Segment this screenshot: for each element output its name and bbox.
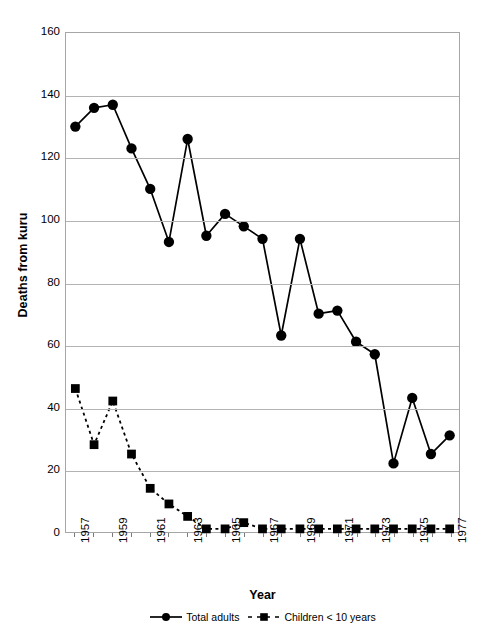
y-tick-label: 0 <box>26 527 60 538</box>
x-tick-mark <box>225 533 226 537</box>
x-tick-mark <box>319 533 320 537</box>
gridline <box>66 346 459 347</box>
data-point-marker <box>127 450 136 459</box>
gridline <box>66 471 459 472</box>
data-point-marker <box>182 134 192 144</box>
legend-circle-icon <box>149 611 183 623</box>
data-point-marker <box>70 121 80 131</box>
y-axis-tick-labels: 020406080100120140160 <box>22 0 60 643</box>
x-tick-mark <box>357 533 358 537</box>
x-tick-mark <box>112 533 113 537</box>
data-point-marker <box>89 103 99 113</box>
data-point-marker <box>333 525 342 534</box>
x-tick-label: 1973 <box>380 517 392 543</box>
data-point-marker <box>370 525 379 534</box>
data-point-marker <box>90 440 99 449</box>
data-point-marker <box>257 234 267 244</box>
data-point-marker <box>276 330 286 340</box>
legend-entry-2: Children < 10 years <box>247 611 375 623</box>
x-tick-mark <box>281 533 282 537</box>
data-point-marker <box>407 393 417 403</box>
x-tick-label: 1975 <box>418 517 430 543</box>
gridline <box>66 284 459 285</box>
x-tick-label: 1961 <box>155 517 167 543</box>
data-point-marker <box>296 525 305 534</box>
x-tick-label: 1957 <box>79 517 91 543</box>
data-point-marker <box>145 184 155 194</box>
x-tick-mark <box>244 533 245 537</box>
chart-legend: Total adultsChildren < 10 years <box>65 611 460 623</box>
data-point-marker <box>426 449 436 459</box>
data-point-marker <box>313 309 323 319</box>
x-tick-label: 1969 <box>305 517 317 543</box>
data-point-marker <box>445 525 454 534</box>
y-tick-label: 120 <box>26 151 60 162</box>
y-tick-label: 100 <box>26 214 60 225</box>
data-point-marker <box>370 349 380 359</box>
x-tick-label: 1971 <box>343 517 355 543</box>
x-tick-mark <box>93 533 94 537</box>
data-point-marker <box>126 143 136 153</box>
legend-label: Children < 10 years <box>284 611 375 623</box>
y-tick-label: 140 <box>26 89 60 100</box>
gridline <box>66 409 459 410</box>
x-tick-mark <box>451 533 452 537</box>
x-tick-mark <box>168 533 169 537</box>
y-tick-label: 80 <box>26 277 60 288</box>
x-tick-mark <box>187 533 188 537</box>
x-tick-mark <box>206 533 207 537</box>
data-point-marker <box>220 209 230 219</box>
gridline <box>66 221 459 222</box>
data-point-marker <box>258 525 267 534</box>
data-point-marker <box>108 100 118 110</box>
x-tick-mark <box>338 533 339 537</box>
y-tick-label: 160 <box>26 26 60 37</box>
x-tick-mark <box>263 533 264 537</box>
data-point-marker <box>239 221 249 231</box>
y-tick-label: 40 <box>26 402 60 413</box>
data-point-marker <box>165 500 174 509</box>
x-tick-label: 1977 <box>456 517 468 543</box>
x-tick-mark <box>394 533 395 537</box>
data-point-marker <box>332 305 342 315</box>
x-tick-mark <box>413 533 414 537</box>
data-point-marker <box>295 234 305 244</box>
data-point-marker <box>71 384 80 393</box>
x-tick-label: 1965 <box>230 517 242 543</box>
x-tick-label: 1963 <box>192 517 204 543</box>
data-point-marker <box>444 430 454 440</box>
x-tick-mark <box>300 533 301 537</box>
legend-label: Total adults <box>186 611 239 623</box>
data-point-marker <box>388 458 398 468</box>
data-point-marker <box>108 397 117 406</box>
gridline <box>66 96 459 97</box>
x-tick-label: 1967 <box>268 517 280 543</box>
data-point-marker <box>146 484 155 493</box>
legend-square-icon <box>247 611 281 623</box>
y-tick-label: 60 <box>26 339 60 350</box>
y-tick-label: 20 <box>26 464 60 475</box>
data-point-marker <box>221 525 230 534</box>
plot-area <box>65 32 460 533</box>
data-point-marker <box>408 525 417 534</box>
gridline <box>66 158 459 159</box>
data-point-marker <box>183 512 192 521</box>
x-tick-mark <box>131 533 132 537</box>
x-axis-title: Year <box>65 588 460 602</box>
series-layer <box>66 33 459 532</box>
x-tick-mark <box>375 533 376 537</box>
kuru-deaths-line-chart: Deaths from kuru 020406080100120140160 1… <box>0 0 490 643</box>
x-tick-mark <box>74 533 75 537</box>
data-point-marker <box>164 237 174 247</box>
x-tick-label: 1959 <box>117 517 129 543</box>
legend-entry-1: Total adults <box>149 611 239 623</box>
x-tick-mark <box>150 533 151 537</box>
x-tick-mark <box>432 533 433 537</box>
data-point-marker <box>201 231 211 241</box>
